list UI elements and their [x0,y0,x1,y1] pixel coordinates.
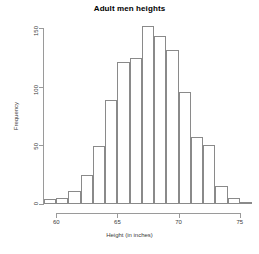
histogram-bar [228,198,240,204]
plot-area [44,22,252,204]
x-axis-tick-label: 60 [53,219,60,225]
histogram-bar [81,175,93,204]
y-axis-tick-label: 50 [33,143,39,179]
y-axis-tick [39,28,44,29]
histogram-bar [130,58,142,204]
histogram-bar [203,145,215,204]
histogram-bar [68,191,80,204]
histogram-bar [191,137,203,204]
histogram-bar [215,186,227,204]
y-axis-tick [39,204,44,205]
histogram-bars [44,22,252,204]
histogram-bar [142,26,154,204]
histogram-figure: Adult men heights 050100150 Frequency 60… [0,0,259,254]
histogram-bar [154,36,166,204]
x-axis-tick [56,213,57,218]
y-axis [43,28,44,204]
y-axis-label: Frequency [13,28,23,204]
x-axis-tick-label: 70 [175,219,182,225]
chart-title: Adult men heights [0,4,259,13]
histogram-bar [240,202,252,204]
histogram-bar [93,146,105,204]
y-axis-tick [39,145,44,146]
x-axis-tick [240,213,241,218]
histogram-bar [105,100,117,205]
x-axis-tick [117,213,118,218]
histogram-bar [117,62,129,204]
x-axis-label: Height (in inches) [0,232,259,238]
x-axis-tick-label: 65 [114,219,121,225]
y-axis-tick [39,87,44,88]
histogram-bar [166,50,178,204]
x-axis-tick [179,213,180,218]
histogram-bar [179,92,191,204]
histogram-bar [56,198,68,204]
x-axis-tick-label: 75 [236,219,243,225]
histogram-bar [44,199,56,204]
x-axis [56,213,240,214]
y-axis-tick-label: 100 [33,85,39,121]
y-axis-tick-label: 150 [33,26,39,62]
